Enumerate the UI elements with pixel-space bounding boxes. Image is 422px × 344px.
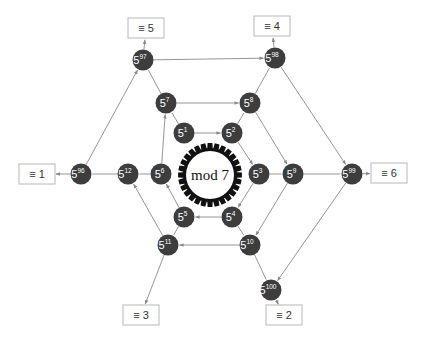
- edge-p4-p10: [238, 226, 244, 235]
- result-edge: [273, 38, 274, 48]
- powers-mod-diagram: mod 7 ≡ 1≡ 5≡ 4≡ 6≡ 2≡ 3 515253545556575…: [0, 0, 422, 344]
- power-node: 55: [174, 207, 195, 228]
- edge-p3-p4: [238, 183, 253, 207]
- power-node: 57: [156, 93, 177, 114]
- power-node: 56: [151, 164, 172, 185]
- edge-p9-p10: [256, 183, 288, 235]
- edge-p8-p98: [255, 68, 269, 94]
- center-label: mod 7: [191, 167, 229, 183]
- result-box: ≡ 6: [371, 163, 407, 183]
- edge-p5-p11: [174, 226, 179, 235]
- svg-text:≡ 6: ≡ 6: [381, 167, 397, 179]
- svg-text:≡ 2: ≡ 2: [276, 309, 292, 321]
- svg-text:≡ 3: ≡ 3: [133, 309, 149, 321]
- edge-p2-p8: [237, 113, 244, 124]
- edge-p5-p6: [166, 184, 179, 208]
- power-node: 53: [249, 164, 270, 185]
- result-edge: [145, 255, 164, 304]
- result-box: ≡ 5: [128, 18, 164, 38]
- power-node: 510: [240, 235, 261, 256]
- power-node: 52: [222, 123, 243, 144]
- result-box: ≡ 2: [266, 305, 302, 325]
- edge-p97-p98: [153, 58, 263, 60]
- result-box: ≡ 1: [19, 164, 55, 184]
- power-node: 597: [133, 50, 154, 71]
- edge-p10-p100: [254, 255, 266, 280]
- power-node: 54: [222, 207, 243, 228]
- power-node: 596: [71, 164, 92, 185]
- edge-p2-p3: [238, 142, 253, 165]
- edge-p96-p97: [86, 70, 137, 165]
- power-node: 511: [158, 235, 179, 256]
- edge-p1-p7: [172, 113, 179, 124]
- edge-p11-p12: [134, 184, 163, 236]
- svg-text:≡ 4: ≡ 4: [264, 20, 280, 32]
- svg-text:≡ 1: ≡ 1: [29, 168, 45, 180]
- result-edge: [276, 299, 279, 304]
- edge-p7-p97: [148, 70, 161, 94]
- result-box: ≡ 3: [123, 305, 159, 325]
- power-node: 58: [240, 93, 261, 114]
- power-node: 512: [118, 164, 139, 185]
- edge-p6-p7: [162, 114, 165, 163]
- power-node: 5100: [260, 280, 282, 301]
- power-node: 599: [342, 164, 363, 185]
- power-node: 598: [265, 48, 286, 69]
- result-box: ≡ 4: [254, 16, 290, 36]
- power-node: 59: [283, 164, 304, 185]
- power-node: 51: [174, 123, 195, 144]
- edge-p98-p99: [281, 67, 346, 165]
- edge-p8-p9: [255, 112, 287, 164]
- result-edge: [144, 40, 145, 50]
- svg-text:≡ 5: ≡ 5: [138, 22, 154, 34]
- edge-p99-p100: [278, 183, 346, 281]
